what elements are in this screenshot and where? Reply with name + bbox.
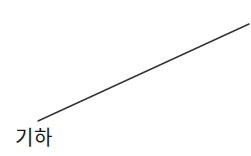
- geometry-label: 기하: [15, 125, 53, 151]
- diagonal-line: [38, 24, 249, 121]
